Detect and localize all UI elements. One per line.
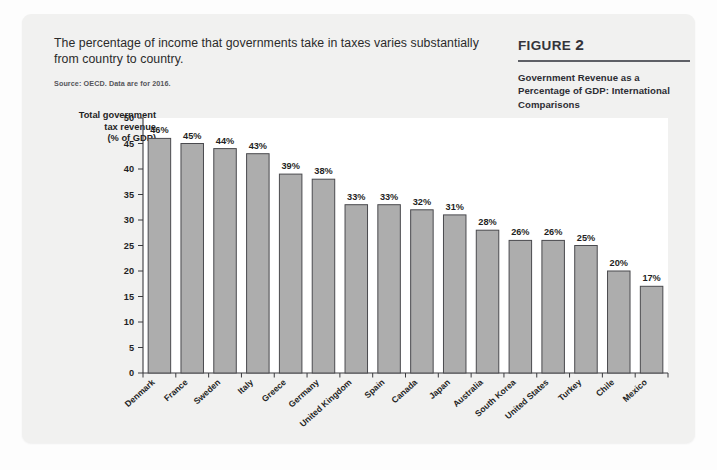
bar-australia [476,230,499,373]
bar-canada [411,210,434,373]
bar-japan [443,215,466,373]
value-label: 43% [249,141,267,151]
value-label: 45% [183,131,201,141]
svg-text:30: 30 [124,215,134,225]
chart-category-labels: DenmarkFranceSwedenItalyGreeceGermanyUni… [123,377,649,429]
svg-text:0: 0 [129,368,134,378]
category-label: Sweden [192,377,223,406]
category-label: Italy [236,377,256,396]
bar-germany [312,179,335,373]
bar-spain [378,205,401,373]
bar-south-korea [509,240,531,373]
bar-sweden [214,149,237,373]
category-label: Denmark [123,377,157,409]
svg-text:25: 25 [124,241,134,251]
svg-text:50: 50 [124,113,134,123]
value-label: 46% [150,125,168,135]
value-label: 44% [216,136,234,146]
value-label: 38% [314,166,332,176]
category-label: France [162,377,190,403]
category-label: Chile [594,377,616,399]
figure-card: The percentage of income that government… [22,14,695,443]
category-label: Greece [260,377,289,404]
svg-text:15: 15 [124,292,134,302]
value-label: 32% [413,197,431,207]
value-label: 28% [478,217,496,227]
svg-text:45: 45 [124,139,134,149]
bar-denmark [148,138,171,373]
category-label: Turkey [556,377,583,403]
chart-area: Total government tax revenue (% of GDP) … [22,14,695,443]
category-label: Japan [427,377,452,401]
value-label: 17% [642,273,660,283]
bar-greece [279,174,302,373]
value-label: 39% [281,161,299,171]
value-label: 31% [446,202,464,212]
category-label: Mexico [621,377,649,404]
category-label: Spain [362,377,386,400]
bar-turkey [575,246,598,374]
chart-bars [148,138,663,373]
bar-mexico [640,286,663,373]
value-label: 26% [544,227,562,237]
svg-text:20: 20 [124,266,134,276]
bar-united-kingdom [345,205,368,373]
category-label: Canada [389,377,419,405]
svg-text:40: 40 [124,164,134,174]
value-label: 25% [577,233,595,243]
svg-text:5: 5 [129,343,134,353]
bar-united-states [542,240,565,373]
svg-text:10: 10 [124,317,134,327]
value-label: 33% [380,192,398,202]
bar-chart-svg: 05101520253035404550 46%45%44%43%39%38%3… [22,14,695,443]
bar-chile [608,271,631,373]
bar-france [181,144,204,374]
value-label: 33% [347,192,365,202]
value-label: 26% [511,227,529,237]
svg-text:35: 35 [124,190,134,200]
bar-italy [247,154,270,373]
page-background: The percentage of income that government… [0,0,717,470]
value-label: 20% [610,258,628,268]
